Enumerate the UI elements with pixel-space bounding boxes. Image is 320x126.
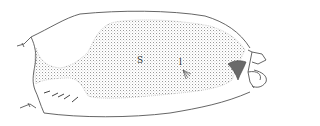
apical-structure <box>248 50 266 88</box>
label-s: S <box>137 55 143 65</box>
label-l: l <box>179 57 182 67</box>
setae-row <box>44 91 78 102</box>
